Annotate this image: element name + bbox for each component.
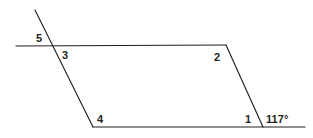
angle-label-4: 4 (97, 114, 103, 125)
transversal-left-line (35, 10, 93, 127)
angle-label-1: 1 (245, 114, 251, 125)
angle-measure-117: 117° (266, 114, 289, 125)
geometry-figure: 5 3 2 4 1 117° (0, 0, 313, 138)
angle-label-5: 5 (36, 33, 42, 44)
angle-label-3: 3 (62, 50, 68, 61)
top-parallel-line (16, 45, 226, 46)
angle-label-2: 2 (214, 52, 220, 63)
